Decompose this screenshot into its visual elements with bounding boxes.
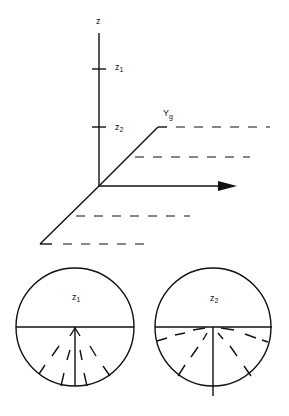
svg-text:z2: z2 [210,293,219,304]
arrowhead-icon [218,181,237,191]
lower-diagonal [40,186,99,244]
yg-axis [99,127,158,186]
z-label: z [96,16,101,26]
svg-text:z1: z1 [72,292,81,303]
yg-label: Yg [163,108,173,121]
circle-z1: z1 [16,268,134,386]
axes-3d: z z1 z2 Yg [40,16,270,244]
circle-z2: z2 [155,268,272,396]
z2-label: z2 [115,122,124,133]
z1-label: z1 [115,62,124,73]
diagram: z z1 z2 Yg z1 z2 [0,0,289,416]
